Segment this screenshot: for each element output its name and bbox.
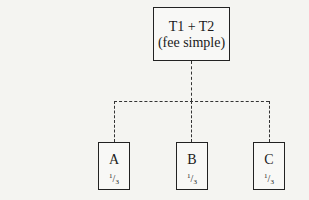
- child-node-b: B 1/3: [176, 142, 208, 190]
- child-share: 1/3: [99, 169, 129, 189]
- connector-b: [191, 101, 192, 142]
- root-title: T1 + T2: [154, 19, 229, 35]
- child-label: A: [99, 153, 129, 167]
- child-node-a: A 1/3: [98, 142, 130, 190]
- child-share: 1/3: [254, 169, 284, 189]
- root-node: T1 + T2 (fee simple): [153, 7, 230, 61]
- child-share: 1/3: [177, 169, 207, 189]
- connector-a: [114, 101, 115, 142]
- root-subtitle: (fee simple): [154, 35, 229, 51]
- child-label: B: [177, 153, 207, 167]
- connector-root-down: [191, 61, 192, 101]
- child-label: C: [254, 153, 284, 167]
- child-node-c: C 1/3: [253, 142, 285, 190]
- connector-c: [269, 101, 270, 142]
